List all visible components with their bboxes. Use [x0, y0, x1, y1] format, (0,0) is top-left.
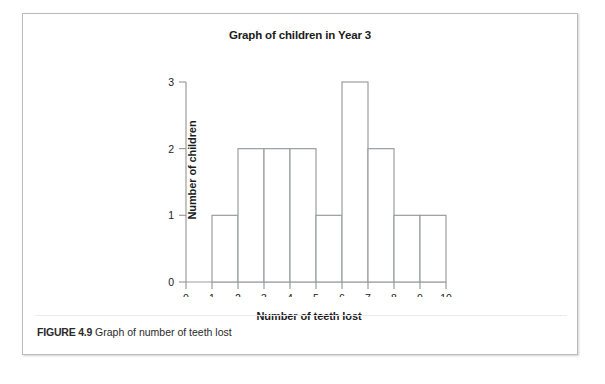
- y-tick-label: 3: [168, 76, 174, 88]
- histogram-bars: [212, 82, 446, 282]
- y-axis-ticks: [179, 82, 186, 282]
- x-tick-label: 2: [235, 292, 241, 297]
- histogram-bar: [212, 215, 238, 282]
- histogram-bar: [342, 82, 368, 282]
- y-tick-label: 1: [168, 209, 174, 221]
- x-tick-label: 8: [391, 292, 397, 297]
- x-tick-label: 3: [261, 292, 267, 297]
- y-axis-title: Number of children: [186, 90, 198, 250]
- x-tick-label: 6: [339, 292, 345, 297]
- x-axis-tick-labels: 0 1 2 3 4 5 6 7 8 9 10: [183, 292, 452, 297]
- y-tick-label: 2: [168, 143, 174, 155]
- histogram-bar: [264, 149, 290, 282]
- histogram-bar: [420, 215, 446, 282]
- figure-caption-body: Graph of number of teeth lost: [95, 326, 232, 338]
- histogram-bar: [238, 149, 264, 282]
- x-tick-label: 10: [440, 292, 452, 297]
- histogram-bar: [290, 149, 316, 282]
- figure-caption: FIGURE 4.9 Graph of number of teeth lost: [37, 326, 232, 338]
- histogram-bar: [368, 149, 394, 282]
- y-axis-tick-labels: 0 1 2 3: [168, 76, 174, 288]
- x-tick-label: 0: [183, 292, 189, 297]
- x-tick-label: 5: [313, 292, 319, 297]
- histogram-bar: [394, 215, 420, 282]
- figure-container: Graph of children in Year 3 0 1 2 3: [22, 13, 578, 355]
- x-axis-ticks: [186, 282, 446, 289]
- chart-plot-area: 0 1 2 3 0 1: [164, 69, 454, 294]
- figure-caption-label: FIGURE 4.9: [37, 326, 92, 338]
- caption-divider: [35, 315, 567, 316]
- x-tick-label: 1: [209, 292, 215, 297]
- histogram-svg: 0 1 2 3 0 1: [164, 69, 454, 297]
- histogram-bar: [316, 215, 342, 282]
- x-tick-label: 9: [417, 292, 423, 297]
- x-axis-title: Number of teeth lost: [164, 310, 454, 322]
- x-tick-label: 7: [365, 292, 371, 297]
- x-tick-label: 4: [287, 292, 293, 297]
- chart-title: Graph of children in Year 3: [23, 29, 577, 41]
- y-tick-label: 0: [168, 276, 174, 288]
